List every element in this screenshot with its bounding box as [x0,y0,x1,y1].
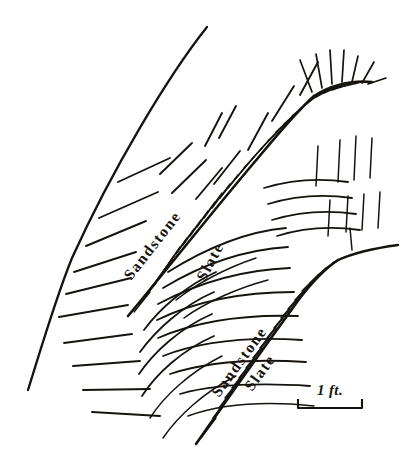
bedding-line [99,192,158,218]
scale-bar-line [298,399,362,408]
bedding-line [92,412,160,416]
bedding-lines-upper-limb [160,62,318,199]
vertical-strata-line [362,194,364,230]
vertical-strata-line [328,200,330,236]
grass-tuft-icon [352,56,358,82]
bedding-line [118,158,170,182]
vertical-strata-line [338,140,340,182]
vertical-strata-line [346,196,348,232]
strata-curve [264,180,348,188]
grass-tuft-icon [316,54,322,88]
folded-core-group [139,228,314,438]
bedding-line [86,221,146,246]
right-ledge-line [338,245,398,260]
fold-curve [188,404,314,416]
strata-curve [268,196,352,204]
grass-tuft-icon [342,50,344,82]
contact-hatching-lower [201,258,342,438]
vertical-strata-line [378,192,380,228]
bedding-line [160,143,192,174]
upper-right-strata-group [264,136,380,236]
strata-curve [277,228,360,236]
hatch-tick [134,292,150,312]
grass-tuft-icon [362,62,374,83]
contact-hatching-upper [134,83,358,312]
bedding-line [219,106,236,138]
grass-tuft-icon [330,50,332,84]
cross-section-drawing: Sandstone Slate Sandstone Slate 1 ft. [0,0,403,463]
bedding-line [172,160,206,193]
hatch-tick [207,408,222,428]
label-sandstone-upper: Sandstone [120,207,184,282]
bedding-line [83,389,150,390]
hatch-tick [274,309,290,328]
bedding-line [205,113,222,146]
bedding-line [73,361,140,366]
vertical-strata-line [354,136,356,180]
fold-curve [158,316,298,338]
hatch-tick [295,283,311,300]
bedding-line [59,305,128,317]
bedding-line [64,334,132,343]
fold-curve [163,247,288,288]
bedding-line [196,168,222,199]
geology-figure: Sandstone Slate Sandstone Slate 1 ft. [0,0,403,463]
ledge-tick [350,228,352,250]
vertical-strata-line [370,138,372,178]
label-slate-upper: Slate [193,239,227,283]
fold-curve [168,228,286,272]
strata-curve [272,212,356,220]
bedding-line [66,278,131,294]
upper-contact-boundary-group [128,83,358,316]
lower-contact-line [196,260,338,444]
bedding-line [272,86,294,121]
hatch-tick [201,418,216,438]
right-ledge-group [338,228,398,260]
scale-bar-caption: 1 ft. [317,382,343,398]
lower-contact-boundary-group [196,258,342,444]
